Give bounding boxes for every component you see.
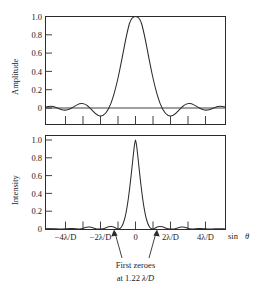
amplitude-ytick-4: 0.4 <box>31 67 42 77</box>
first-zero-arrow-right-head <box>153 230 159 237</box>
first-zero-arrow-right-shaft <box>149 232 156 258</box>
amplitude-panel: 1.0 0.8 0.6 0.4 0.2 0 <box>10 12 226 125</box>
amplitude-y-tick-labels: 1.0 0.8 0.6 0.4 0.2 0 <box>31 12 42 114</box>
amplitude-ytick-5: 0.2 <box>31 85 42 95</box>
amplitude-ytick-1: 1.0 <box>31 12 42 22</box>
amplitude-y-axis-label: Amplitude <box>10 58 20 95</box>
intensity-y-tick-labels: 1.0 0.8 0.6 0.4 0.2 0 <box>31 135 42 234</box>
xtick-label-minus2: −2λ/D <box>90 232 112 242</box>
intensity-y-axis-label: Intensity <box>10 175 20 205</box>
x-axis-tick-labels: −4λ/D −2λ/D 0 2λ/D 4λ/D <box>55 232 214 242</box>
intensity-plot-frame <box>46 136 226 230</box>
figure-svg: 1.0 0.8 0.6 0.4 0.2 0 <box>0 0 260 298</box>
intensity-ytick-1: 1.0 <box>31 135 42 145</box>
amplitude-ytick-3: 0.6 <box>31 48 42 58</box>
intensity-panel: 1.0 0.8 0.6 0.4 0.2 0 <box>10 135 226 234</box>
x-axis-title: sin θ <box>228 231 249 241</box>
intensity-curve <box>46 140 226 229</box>
amplitude-y-ticks <box>46 17 53 109</box>
intensity-ytick-6: 0 <box>38 224 42 234</box>
intensity-y-ticks <box>46 140 53 229</box>
intensity-ytick-5: 0.2 <box>31 206 42 216</box>
first-zero-arrow-left-head <box>111 230 117 237</box>
intensity-x-ticks <box>66 222 206 230</box>
x-axis-title-theta: θ <box>245 231 249 241</box>
xtick-label-zero: 0 <box>133 232 137 242</box>
amplitude-curve <box>46 17 226 116</box>
first-zeroes-label-line1: First zeroes <box>116 260 155 270</box>
amplitude-ytick-6: 0 <box>38 103 42 113</box>
intensity-ytick-2: 0.8 <box>31 153 42 163</box>
intensity-ytick-4: 0.4 <box>31 189 42 199</box>
xtick-label-plus4: 4λ/D <box>197 232 214 242</box>
first-zero-arrow-left-shaft <box>115 232 122 258</box>
amplitude-ytick-2: 0.8 <box>31 30 42 40</box>
amplitude-x-ticks <box>66 116 206 125</box>
first-zeroes-label-line2: at 1.22 λ/D <box>117 273 155 283</box>
first-zeroes-value-symbol: λ/D <box>141 273 155 283</box>
xtick-label-minus4: −4λ/D <box>55 232 77 242</box>
intensity-ytick-3: 0.6 <box>31 171 42 181</box>
first-zeroes-value-prefix: at 1.22 <box>117 273 142 283</box>
airy-pattern-figure: 1.0 0.8 0.6 0.4 0.2 0 <box>0 0 260 298</box>
x-axis-title-sin: sin <box>228 231 239 241</box>
xtick-label-plus2: 2λ/D <box>162 232 179 242</box>
